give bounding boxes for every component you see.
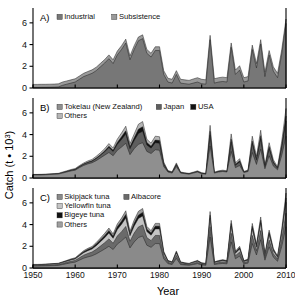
legend-swatch <box>112 14 117 19</box>
legend-swatch <box>57 204 62 209</box>
x-axis-title: Year <box>157 285 180 297</box>
legend-label: Others <box>64 220 87 229</box>
legend-label: Bigeye tuna <box>64 210 105 219</box>
y-tick-label: 4 <box>22 130 27 140</box>
legend-item-yellowfin-tuna[interactable]: Yellowfin tuna <box>57 201 112 210</box>
x-tick-label: 1970 <box>108 270 127 280</box>
legend-label: Others <box>64 111 87 120</box>
legend-label: Tokelau (New Zealand) <box>64 102 143 111</box>
y-tick-label: 4 <box>22 40 27 50</box>
legend-label: Albacore <box>131 192 161 201</box>
x-tick-label: 2010 <box>277 270 295 280</box>
figure-tokelau-catch: Catch (t • 103) Year 0246A)IndustrialSub… <box>0 0 295 299</box>
y-tick-label: 6 <box>22 108 27 118</box>
legend-swatch <box>156 104 161 109</box>
legend-swatch <box>57 222 62 227</box>
y-axis-title: Catch (t • 103) <box>3 131 16 200</box>
legend-label: Yellowfin tuna <box>64 201 111 210</box>
y-tick-label: 4 <box>22 220 27 230</box>
x-tick-label: 1960 <box>66 270 85 280</box>
panel-label-c: C) <box>40 192 50 203</box>
legend-swatch <box>57 194 62 199</box>
y-tick-label: 6 <box>22 198 27 208</box>
y-tick-label: 0 <box>22 173 27 183</box>
legend-label: Japan <box>163 102 184 111</box>
legend-swatch <box>191 104 196 109</box>
legend-label: Subsistence <box>119 12 160 21</box>
y-tick-label: 2 <box>22 151 27 161</box>
y-tick-label: 2 <box>22 241 27 251</box>
legend-item-skipjack-tuna[interactable]: Skipjack tuna <box>57 192 110 201</box>
legend-item-tokelau-new-zealand-[interactable]: Tokelau (New Zealand) <box>57 102 143 111</box>
x-tick-label: 1980 <box>150 270 169 280</box>
panel-label-b: B) <box>40 102 50 113</box>
svg-text:Catch (t • 103): Catch (t • 103) <box>3 131 16 200</box>
legend-item-bigeye-tuna[interactable]: Bigeye tuna <box>57 210 105 219</box>
legend-label: Industrial <box>64 12 95 21</box>
x-tick-label: 1950 <box>24 270 43 280</box>
y-axis-title-close: ) <box>3 131 15 135</box>
x-tick-label: 1990 <box>192 270 211 280</box>
y-tick-label: 0 <box>22 83 27 93</box>
legend-swatch <box>57 114 62 119</box>
legend-swatch <box>57 213 62 218</box>
legend-item-subsistence[interactable]: Subsistence <box>112 12 161 21</box>
legend-label: Skipjack tuna <box>64 192 110 201</box>
legend-swatch <box>124 194 129 199</box>
y-tick-label: 2 <box>22 61 27 71</box>
legend-swatch <box>57 14 62 19</box>
y-tick-label: 6 <box>22 18 27 28</box>
y-axis-title-base: Catch (t • 10 <box>3 139 15 200</box>
legend-label: USA <box>198 102 215 111</box>
x-tick-label: 2000 <box>234 270 253 280</box>
legend-swatch <box>57 104 62 109</box>
panel-label-a: A) <box>40 12 50 23</box>
